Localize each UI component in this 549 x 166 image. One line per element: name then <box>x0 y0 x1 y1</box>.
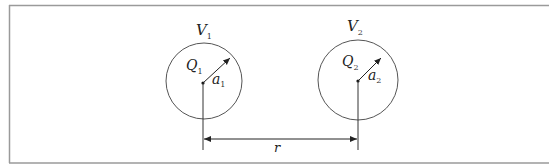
sphere-1-circle <box>166 43 242 119</box>
distance-dimension: r <box>204 139 357 155</box>
sphere-1-volume-label: V1 <box>196 21 212 41</box>
sphere-2-volume-label: V2 <box>347 17 363 37</box>
sphere-1-radius-label: a1 <box>212 71 225 89</box>
sphere-1-charge-label: Q1 <box>186 57 203 76</box>
sphere-2: V2 Q2 a2 <box>318 17 398 150</box>
distance-label: r <box>274 140 281 155</box>
diagram-canvas: V1 Q1 a1 V2 Q2 a2 r <box>0 0 549 166</box>
sphere-2-charge-label: Q2 <box>342 53 359 72</box>
sphere-1: V1 Q1 a1 <box>166 21 242 150</box>
sphere-2-radius-label: a2 <box>368 67 381 85</box>
